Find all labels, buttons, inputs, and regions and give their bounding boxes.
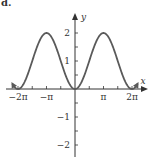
x-axis-label: x — [140, 76, 145, 86]
x-axis-arrow-icon — [141, 86, 148, 92]
y-axis-arrow-icon — [72, 13, 78, 20]
y-axis-label: y — [80, 12, 87, 22]
y-tick-label: 1 — [64, 56, 70, 66]
function-plot: −2π−ππ2π21−1−2xy — [0, 0, 150, 157]
y-tick-label: −2 — [57, 140, 70, 150]
y-tick-label: 2 — [64, 28, 70, 38]
y-tick-label: −1 — [57, 112, 70, 122]
x-tick-label: −π — [40, 92, 54, 102]
x-tick-label: −2π — [8, 92, 27, 102]
x-tick-label: π — [101, 92, 107, 102]
x-tick-label: 2π — [126, 92, 138, 102]
